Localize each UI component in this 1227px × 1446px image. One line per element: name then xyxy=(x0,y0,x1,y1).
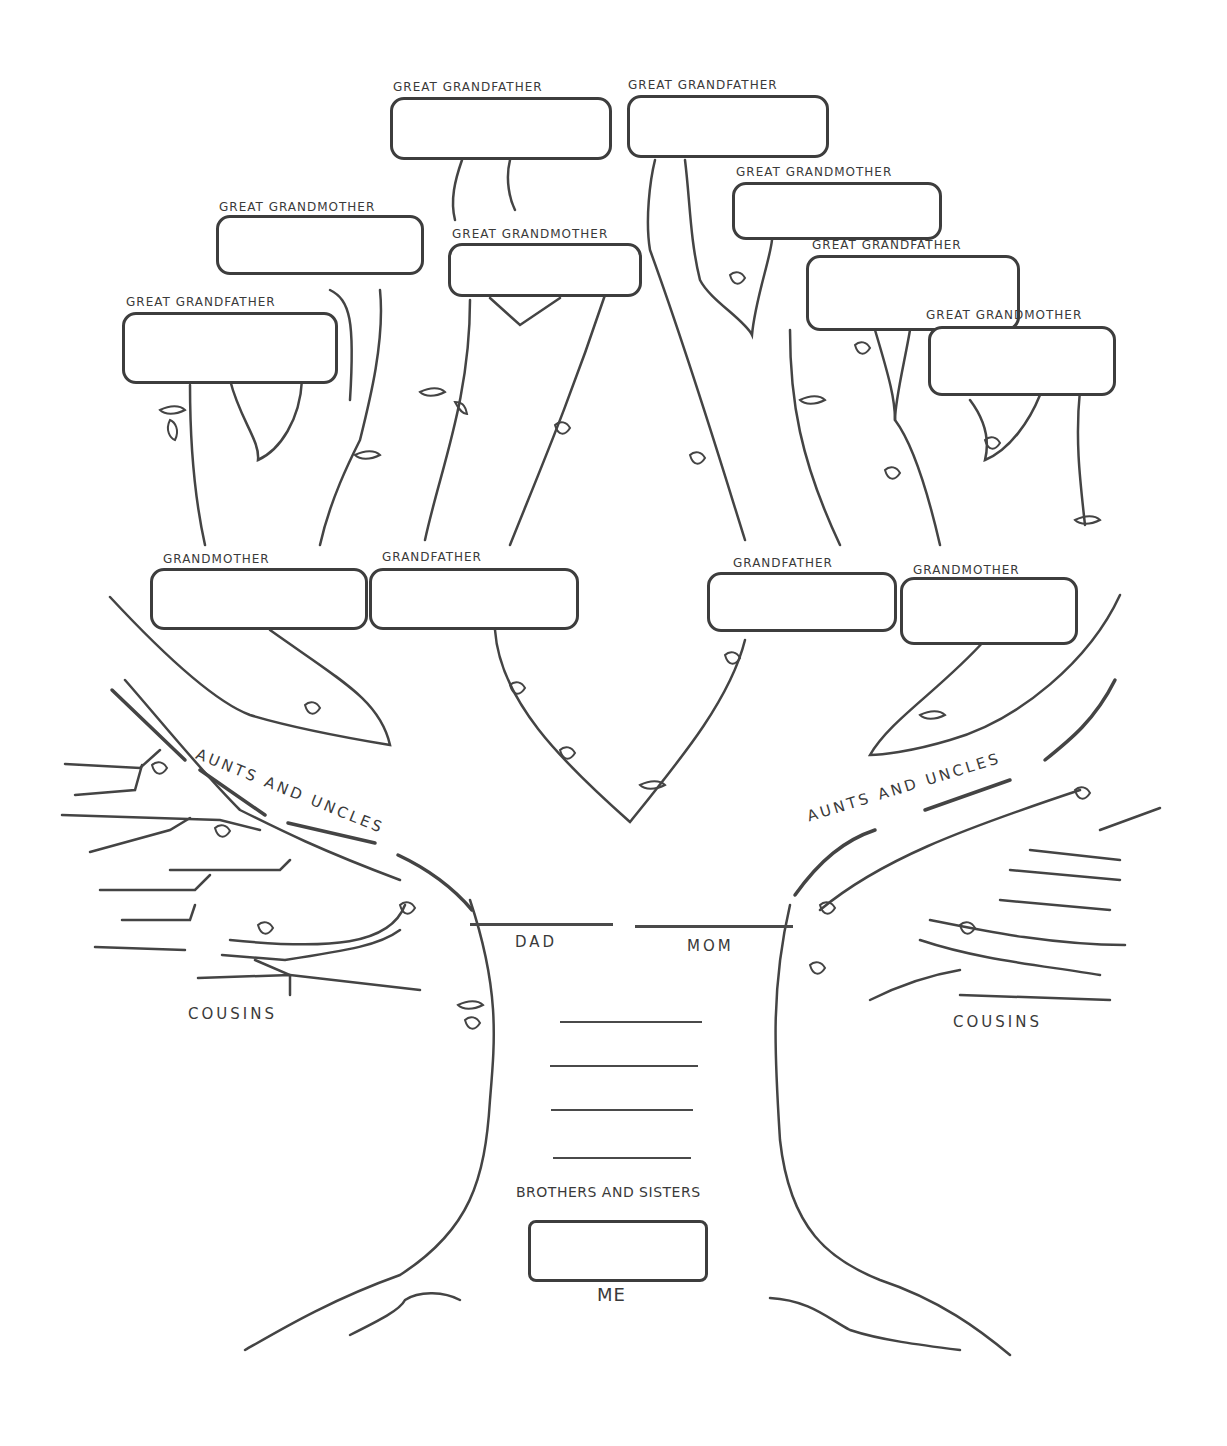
label-grandmother-paternal: GRANDMOTHER xyxy=(163,552,270,566)
label-grandfather-paternal: GRANDFATHER xyxy=(382,550,482,564)
label-dad: DAD xyxy=(515,933,557,951)
sibling-line-4[interactable] xyxy=(553,1157,691,1159)
label-great-grandfather-2: GREAT GRANDFATHER xyxy=(126,295,276,309)
label-great-grandmother-1: GREAT GRANDMOTHER xyxy=(219,200,375,214)
label-me: ME xyxy=(597,1284,626,1305)
label-brothers-sisters: BROTHERS AND SISTERS xyxy=(516,1184,701,1200)
label-great-grandmother-4: GREAT GRANDMOTHER xyxy=(926,308,1082,322)
sibling-line-2[interactable] xyxy=(550,1065,698,1067)
label-great-grandmother-3: GREAT GRANDMOTHER xyxy=(736,165,892,179)
mom-name-line[interactable] xyxy=(635,925,793,928)
sibling-line-1[interactable] xyxy=(560,1021,702,1023)
label-great-grandfather-1: GREAT GRANDFATHER xyxy=(393,80,543,94)
box-great-grandfather-1[interactable] xyxy=(390,97,612,160)
label-grandmother-maternal: GRANDMOTHER xyxy=(913,563,1020,577)
box-grandfather-paternal[interactable] xyxy=(369,568,579,630)
box-grandmother-paternal[interactable] xyxy=(150,568,368,630)
box-grandfather-maternal[interactable] xyxy=(707,572,897,632)
box-me[interactable] xyxy=(528,1220,708,1282)
dad-name-line[interactable] xyxy=(470,923,613,926)
sibling-line-3[interactable] xyxy=(551,1109,693,1111)
box-great-grandmother-1[interactable] xyxy=(216,215,424,275)
box-grandmother-maternal[interactable] xyxy=(900,577,1078,645)
box-great-grandmother-4[interactable] xyxy=(928,326,1116,396)
box-great-grandmother-3[interactable] xyxy=(732,182,942,240)
label-great-grandfather-4: GREAT GRANDFATHER xyxy=(812,238,962,252)
box-great-grandfather-2[interactable] xyxy=(122,312,338,384)
label-great-grandmother-2: GREAT GRANDMOTHER xyxy=(452,227,608,241)
label-grandfather-maternal: GRANDFATHER xyxy=(733,556,833,570)
label-mom: MOM xyxy=(687,937,734,955)
label-cousins-right: COUSINS xyxy=(953,1013,1042,1031)
label-cousins-left: COUSINS xyxy=(188,1005,277,1023)
label-great-grandfather-3: GREAT GRANDFATHER xyxy=(628,78,778,92)
box-great-grandmother-2[interactable] xyxy=(448,243,642,297)
box-great-grandfather-3[interactable] xyxy=(627,95,829,158)
